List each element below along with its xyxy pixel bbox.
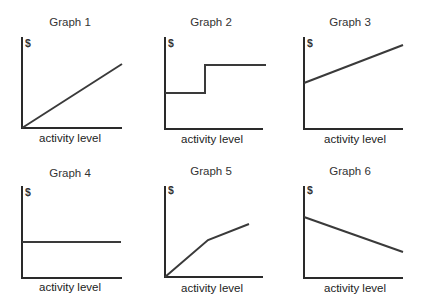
y-axis-label: $ [168, 184, 174, 196]
y-axis-label: $ [307, 184, 313, 196]
graph-title: Graph 5 [190, 165, 232, 177]
x-axis-label: activity level [39, 132, 101, 144]
y-axis-label: $ [25, 186, 31, 198]
cost-line [165, 224, 249, 277]
graph-2: Graph 2 $ activity level [165, 16, 266, 145]
cost-line [304, 45, 403, 83]
x-axis-label: activity level [324, 133, 386, 145]
y-axis-label: $ [307, 37, 313, 49]
step-cost-line [165, 65, 266, 93]
x-axis-label: activity level [181, 282, 243, 294]
graph-5: Graph 5 $ activity level [165, 165, 263, 294]
graph-6: Graph 6 $ activity level [304, 165, 403, 294]
cost-line [22, 64, 122, 128]
axes [22, 37, 122, 128]
graph-4: Graph 4 $ activity level [22, 167, 122, 293]
graph-title: Graph 2 [190, 16, 232, 28]
graphs-canvas: Graph 1 $ activity level Graph 2 $ activ… [0, 0, 424, 305]
x-axis-label: activity level [39, 281, 101, 293]
graph-title: Graph 3 [329, 16, 371, 28]
axes [22, 186, 122, 278]
x-axis-label: activity level [324, 282, 386, 294]
cost-line [304, 217, 403, 252]
graph-title: Graph 1 [49, 16, 91, 28]
graph-title: Graph 4 [49, 167, 91, 179]
y-axis-label: $ [168, 37, 174, 49]
graph-3: Graph 3 $ activity level [304, 16, 403, 145]
graph-1: Graph 1 $ activity level [22, 16, 122, 144]
y-axis-label: $ [25, 37, 31, 49]
axes [165, 37, 263, 129]
axes [304, 186, 403, 278]
graph-title: Graph 6 [329, 165, 371, 177]
x-axis-label: activity level [181, 133, 243, 145]
